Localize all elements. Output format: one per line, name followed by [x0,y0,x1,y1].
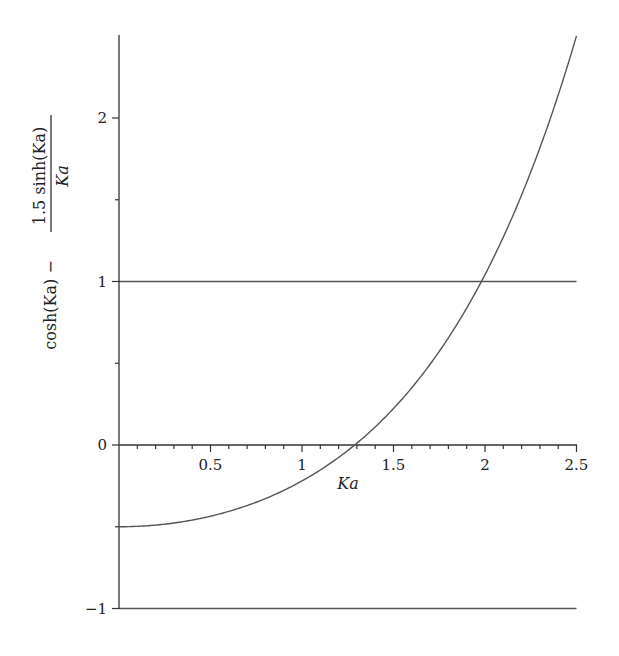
x-axis-ticks: 0.511.522.5 [137,445,588,474]
y-tick-label: 2 [97,109,107,127]
y-label-prefix: cosh(Ka) − [41,260,60,350]
x-axis-label: Ka [336,474,359,493]
x-tick-label: 1 [297,456,307,474]
y-axis-ticks: −1012 [85,109,119,618]
y-tick-label: 0 [97,436,107,454]
x-tick-label: 2.5 [565,456,589,474]
y-axis-label: cosh(Ka) − 1.5 sinh(Ka) Ka [30,115,72,350]
y-label-numerator: 1.5 sinh(Ka) [30,127,49,225]
x-tick-label: 1.5 [382,456,406,474]
y-tick-label: 1 [97,273,107,291]
x-tick-label: 0.5 [199,456,223,474]
y-label-denominator: Ka [53,165,72,188]
chart: 0.511.522.5 −1012 Ka cosh(Ka) − 1.5 sinh… [0,0,619,656]
x-tick-label: 2 [480,456,490,474]
y-tick-label: −1 [85,600,107,618]
